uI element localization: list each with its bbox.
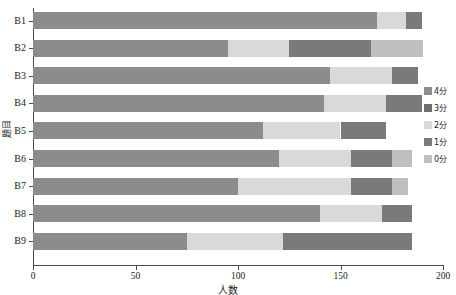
bar-segment xyxy=(279,150,351,167)
bar-row xyxy=(0,233,456,250)
legend-swatch-icon xyxy=(424,104,432,112)
bar-segment xyxy=(382,205,413,222)
bar-segment xyxy=(33,150,279,167)
bar-segment xyxy=(392,150,413,167)
bar-segment xyxy=(228,40,290,57)
legend-swatch-icon xyxy=(424,121,432,129)
bar-segment xyxy=(33,40,228,57)
legend-item[interactable]: 2分 xyxy=(424,116,456,133)
legend-item[interactable]: 3分 xyxy=(424,99,456,116)
legend-label: 2分 xyxy=(434,119,447,130)
bar-segment xyxy=(320,205,382,222)
legend-label: 0分 xyxy=(434,153,447,164)
bar-segment xyxy=(324,95,386,112)
bar-segment xyxy=(33,205,320,222)
legend-item[interactable]: 1分 xyxy=(424,133,456,150)
bar-segment xyxy=(283,233,412,250)
x-tick-label-100: 100 xyxy=(218,271,258,282)
bar-segment xyxy=(33,233,187,250)
bar-segment xyxy=(371,40,422,57)
x-axis-title: 人数 xyxy=(0,282,456,295)
bar-segment xyxy=(238,178,351,195)
bar-segment xyxy=(33,122,263,139)
bar-row xyxy=(0,122,456,139)
y-axis-title: 题目 xyxy=(0,109,13,149)
bar-row xyxy=(0,178,456,195)
legend-label: 3分 xyxy=(434,102,447,113)
bar-segment xyxy=(392,178,408,195)
x-tick-50 xyxy=(136,265,137,270)
bar-row xyxy=(0,95,456,112)
x-tick-100 xyxy=(238,265,239,270)
legend-item[interactable]: 0分 xyxy=(424,150,456,167)
bar-segment xyxy=(289,40,371,57)
bar-segment xyxy=(351,150,392,167)
bar-segment xyxy=(330,67,392,84)
x-tick-200 xyxy=(443,265,444,270)
legend-swatch-icon xyxy=(424,138,432,146)
bar-segment xyxy=(386,95,423,112)
x-tick-label-50: 50 xyxy=(116,271,156,282)
bar-segment xyxy=(33,12,377,29)
bar-segment xyxy=(377,12,406,29)
bar-segment xyxy=(33,95,324,112)
bar-segment xyxy=(406,12,422,29)
x-tick-0 xyxy=(33,265,34,270)
chart-container: 050100150200 B1B2B3B4B5B6B7B8B9 人数 题目 4分… xyxy=(0,0,456,295)
legend-label: 1分 xyxy=(434,136,447,147)
bar-row xyxy=(0,12,456,29)
bar-row xyxy=(0,67,456,84)
legend-item[interactable]: 4分 xyxy=(424,82,456,99)
legend: 4分3分2分1分0分 xyxy=(424,82,456,167)
bar-segment xyxy=(392,67,419,84)
legend-swatch-icon xyxy=(424,155,432,163)
bar-segment xyxy=(33,67,330,84)
x-tick-label-200: 200 xyxy=(423,271,456,282)
bar-row xyxy=(0,205,456,222)
bar-segment xyxy=(351,178,392,195)
legend-swatch-icon xyxy=(424,87,432,95)
legend-label: 4分 xyxy=(434,85,447,96)
bar-segment xyxy=(341,122,386,139)
bar-segment xyxy=(263,122,341,139)
bar-row xyxy=(0,150,456,167)
x-tick-150 xyxy=(341,265,342,270)
bar-row xyxy=(0,40,456,57)
x-tick-label-150: 150 xyxy=(321,271,361,282)
x-tick-label-0: 0 xyxy=(13,271,53,282)
bar-segment xyxy=(187,233,283,250)
bar-segment xyxy=(33,178,238,195)
